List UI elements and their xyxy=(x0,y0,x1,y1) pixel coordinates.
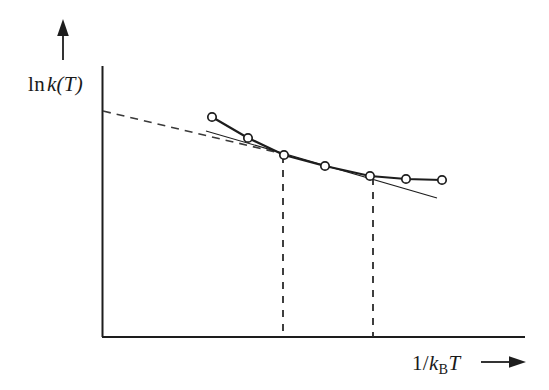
x-axis-label: 1/kBT xyxy=(412,351,460,378)
extrapolation-dashed-line xyxy=(103,111,288,155)
arrhenius-plot-figure: lnk(T) 1/kBT xyxy=(0,0,549,390)
data-point-marker xyxy=(402,175,410,183)
data-point-markers xyxy=(208,113,446,184)
arrow-right-icon xyxy=(481,356,526,368)
arrow-up-icon xyxy=(57,19,69,60)
data-point-marker xyxy=(321,162,329,170)
data-point-marker xyxy=(208,113,216,121)
data-point-marker xyxy=(244,134,252,142)
x-axis-label-variable: T xyxy=(448,351,460,375)
y-axis-label-prefix: ln xyxy=(28,72,45,96)
data-point-marker xyxy=(438,176,446,184)
y-axis-label: lnk(T) xyxy=(28,72,83,97)
x-axis-label-subscript: B xyxy=(439,361,449,377)
x-axis-label-numerator: 1/ xyxy=(412,351,429,375)
x-axis-label-symbol: k xyxy=(429,351,439,375)
data-point-marker xyxy=(280,151,288,159)
plot-canvas xyxy=(0,0,549,390)
y-axis-label-arg: (T) xyxy=(57,72,84,96)
data-point-marker xyxy=(366,172,374,180)
y-axis-label-symbol: k xyxy=(47,72,57,96)
